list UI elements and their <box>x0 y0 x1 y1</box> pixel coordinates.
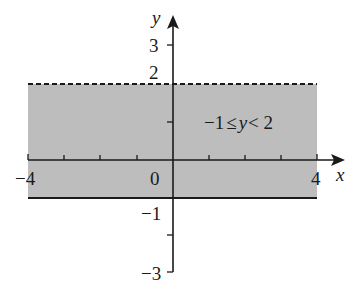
annotation-le-symbol: ≤ <box>226 112 236 133</box>
x-tick-label-4: 4 <box>311 168 321 189</box>
inequality-annotation: −1≤y< 2 <box>204 112 273 133</box>
y-tick-label-2: 2 <box>149 62 159 83</box>
y-tick-label-neg3: −3 <box>141 263 161 284</box>
annotation-upper: < 2 <box>248 112 273 133</box>
y-tick-label-3: 3 <box>149 35 159 56</box>
annotation-variable: y <box>237 112 248 133</box>
x-tick-label-neg4: −4 <box>15 168 36 189</box>
inequality-graph: y 3 2 −1 −3 −4 0 4 x −1≤y< 2 <box>0 0 356 299</box>
y-axis-label: y <box>150 7 161 28</box>
annotation-lower: −1 <box>204 112 224 133</box>
x-tick-label-0: 0 <box>150 168 160 189</box>
y-tick-label-neg1: −1 <box>141 203 161 224</box>
x-axis-label: x <box>335 164 345 185</box>
